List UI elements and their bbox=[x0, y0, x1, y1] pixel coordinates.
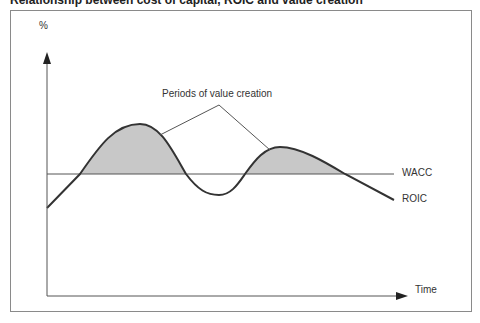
wacc-label: WACC bbox=[402, 167, 432, 178]
chart-plot bbox=[0, 0, 480, 323]
annotation-label: Periods of value creation bbox=[162, 88, 272, 99]
roic-label: ROIC bbox=[402, 193, 427, 204]
x-axis-label: Time bbox=[415, 284, 437, 295]
value-creation-area-1 bbox=[80, 124, 186, 174]
x-axis-arrow-icon bbox=[396, 292, 408, 300]
value-creation-area-2 bbox=[245, 147, 345, 174]
y-axis-arrow-icon bbox=[43, 52, 51, 64]
y-axis-label: % bbox=[39, 20, 48, 31]
annotation-leader bbox=[160, 105, 270, 150]
